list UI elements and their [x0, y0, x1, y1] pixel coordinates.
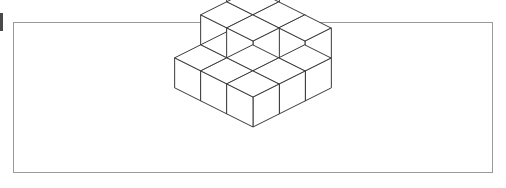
isometric-cube-stack: [175, 0, 331, 127]
figure-canvas: [0, 0, 506, 188]
scan-artifact-mark: [0, 13, 3, 31]
figure-page: [0, 0, 506, 188]
